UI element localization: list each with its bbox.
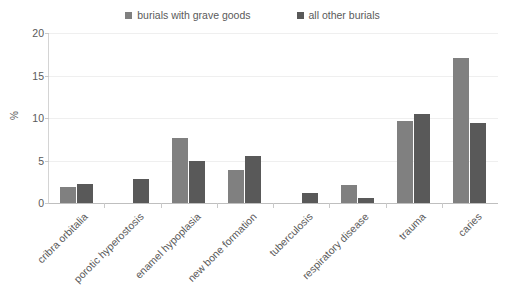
x-axis-tick-mark bbox=[386, 203, 387, 208]
bar[interactable] bbox=[228, 170, 244, 203]
x-axis-tick-mark bbox=[161, 203, 162, 208]
y-axis-tick-mark bbox=[45, 76, 49, 77]
bar-group bbox=[48, 33, 104, 203]
bars-layer bbox=[48, 33, 498, 203]
bar[interactable] bbox=[414, 114, 430, 203]
bar[interactable] bbox=[341, 185, 357, 203]
bar[interactable] bbox=[60, 187, 76, 203]
legend-entry-burials-with-grave-goods[interactable]: burials with grave goods bbox=[125, 10, 250, 21]
bar[interactable] bbox=[189, 161, 205, 204]
y-axis-tick-mark bbox=[45, 33, 49, 34]
x-axis-tick-mark bbox=[273, 203, 274, 208]
y-axis-tick-labels: 05101520 bbox=[0, 33, 44, 204]
bar[interactable] bbox=[397, 121, 413, 203]
x-axis-tick-mark bbox=[442, 203, 443, 208]
bar-group bbox=[161, 33, 217, 203]
legend-label: burials with grave goods bbox=[137, 10, 250, 21]
y-axis-tick-label: 10 bbox=[4, 113, 44, 123]
bar-group bbox=[386, 33, 442, 203]
legend-label: all other burials bbox=[309, 10, 380, 21]
legend-swatch-icon bbox=[125, 12, 132, 19]
bar[interactable] bbox=[245, 156, 261, 203]
bar-group bbox=[329, 33, 385, 203]
y-axis-tick-label: 15 bbox=[4, 71, 44, 81]
x-axis-tick-labels: cribra orbitaliaporotic hyperostosisenam… bbox=[0, 203, 505, 293]
x-axis-tick-mark bbox=[217, 203, 218, 208]
bar-group bbox=[217, 33, 273, 203]
y-axis-tick-mark bbox=[45, 161, 49, 162]
x-axis-tick-mark bbox=[329, 203, 330, 208]
bar-group bbox=[442, 33, 498, 203]
x-axis-tick-mark bbox=[104, 203, 105, 208]
bar[interactable] bbox=[453, 58, 469, 203]
y-axis-tick-mark bbox=[45, 203, 49, 204]
y-axis-tick-mark bbox=[45, 118, 49, 119]
legend-swatch-icon bbox=[297, 12, 304, 19]
bar-chart: burials with grave goods all other buria… bbox=[0, 0, 505, 293]
bar[interactable] bbox=[77, 184, 93, 203]
y-axis-tick-label: 5 bbox=[4, 156, 44, 166]
bar[interactable] bbox=[172, 138, 188, 203]
y-axis-tick-label: 20 bbox=[4, 28, 44, 38]
bar-group bbox=[273, 33, 329, 203]
legend-entry-all-other-burials[interactable]: all other burials bbox=[297, 10, 380, 21]
bar[interactable] bbox=[133, 179, 149, 203]
bar[interactable] bbox=[302, 193, 318, 203]
chart-legend: burials with grave goods all other buria… bbox=[0, 7, 505, 23]
bar-group bbox=[104, 33, 160, 203]
bar[interactable] bbox=[470, 123, 486, 203]
